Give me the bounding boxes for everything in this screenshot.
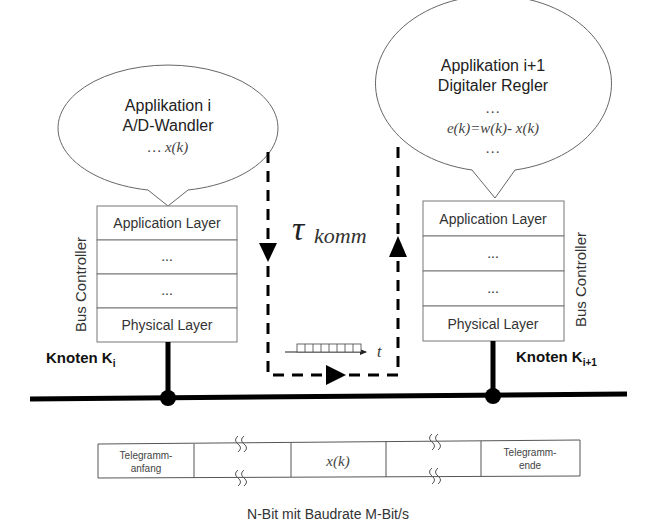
left-layer-physical: Physical Layer [121, 317, 212, 333]
right-bubble-title: Applikation i+1 [441, 57, 546, 74]
tau-subscript: komm [314, 223, 367, 248]
telegram-payload: x(k) [325, 453, 349, 470]
left-bus-controller-label: Bus Controller [72, 237, 89, 332]
right-node-label: Knoten Ki+1 [516, 348, 597, 368]
left-application-bubble: Applikation i A/D-Wandler … x(k) [58, 65, 278, 206]
right-bubble-dots-bottom: … [486, 140, 499, 156]
right-layer-physical: Physical Layer [447, 316, 538, 332]
telegram-end-line2: ende [519, 460, 542, 471]
right-bus-controller-label: Bus Controller [572, 232, 589, 327]
left-protocol-stack: Application Layer ... ... Physical Layer… [72, 206, 237, 342]
left-junction-dot [160, 390, 176, 406]
right-junction-dot [485, 388, 501, 404]
down-arrow-icon [259, 243, 277, 262]
left-layer-dots-2: ... [161, 282, 173, 298]
left-node-label: Knoten Ki [46, 349, 116, 369]
footer-caption: N-Bit mit Baudrate M-Bit/s [247, 506, 409, 522]
right-application-bubble: Applikation i+1 Digitaler Regler … e(k)=… [376, 0, 612, 198]
right-layer-dots-1: ... [487, 245, 499, 261]
right-bubble-formula: e(k)=w(k)- x(k) [447, 120, 539, 137]
telegram-frame: Telegramm- anfang x(k) Telegramm- ende [98, 434, 580, 486]
right-layer-application: Application Layer [439, 211, 547, 227]
right-protocol-stack: Application Layer ... ... Physical Layer… [423, 201, 589, 341]
time-axis-label: t [377, 343, 382, 360]
right-bubble-subtitle: Digitaler Regler [438, 77, 549, 94]
bus-line [30, 394, 627, 399]
telegram-start-line2: anfang [131, 463, 162, 474]
telegram-start-line1: Telegramm- [120, 450, 173, 461]
left-layer-application: Application Layer [113, 215, 221, 231]
right-bubble-dots-top: … [486, 100, 499, 116]
bus-communication-diagram: Applikation i A/D-Wandler … x(k) Applika… [0, 0, 657, 530]
left-layer-dots-1: ... [161, 248, 173, 264]
left-bubble-formula: … x(k) [148, 139, 188, 156]
right-layer-dots-2: ... [487, 280, 499, 296]
left-bubble-title: Applikation i [125, 97, 211, 114]
up-arrow-icon [389, 236, 407, 257]
left-bubble-subtitle: A/D-Wandler [123, 117, 215, 134]
right-arrow-icon [326, 365, 346, 385]
tau-symbol: τ [292, 210, 306, 247]
telegram-end-line1: Telegramm- [504, 447, 557, 458]
bit-sequence-time-axis: t [285, 343, 382, 360]
